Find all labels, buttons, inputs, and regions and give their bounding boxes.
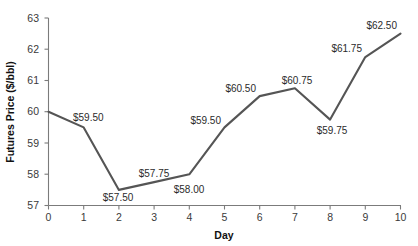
x-tick-label: 6 — [257, 211, 263, 223]
y-axis-title: Futures Price ($/bbl) — [4, 61, 16, 163]
y-tick-label: 60 — [27, 105, 39, 117]
data-point-label: $59.50 — [73, 112, 104, 123]
y-tick-label: 58 — [27, 168, 39, 180]
data-point-label: $57.50 — [103, 192, 134, 203]
x-tick-label: 9 — [362, 211, 368, 223]
x-tick-label: 10 — [395, 211, 407, 223]
y-tick-label: 63 — [27, 12, 39, 24]
data-point-label: $59.50 — [190, 115, 221, 126]
x-axis-title: Day — [214, 229, 233, 241]
data-point-label: $61.75 — [331, 43, 362, 54]
x-tick-label: 5 — [222, 211, 228, 223]
x-tick-label: 0 — [46, 211, 52, 223]
x-tick-label: 8 — [327, 211, 333, 223]
data-point-label: $60.75 — [282, 75, 313, 86]
data-point-label: $58.00 — [174, 184, 205, 195]
y-tick-label: 61 — [27, 74, 39, 86]
x-tick-label: 1 — [81, 211, 87, 223]
x-tick-label: 3 — [151, 211, 157, 223]
y-tick-label: 62 — [27, 43, 39, 55]
x-tick-label: 7 — [292, 211, 298, 223]
y-tick-label: 59 — [27, 137, 39, 149]
x-tick-label: 4 — [186, 211, 192, 223]
line-chart: 63 62 61 60 59 58 57 0 1 2 3 4 5 6 7 8 9… — [0, 0, 418, 246]
data-point-label: $60.50 — [225, 83, 256, 94]
x-tick-label: 2 — [116, 211, 122, 223]
data-point-label: $57.75 — [139, 168, 170, 179]
chart-canvas: 63 62 61 60 59 58 57 0 1 2 3 4 5 6 7 8 9… — [0, 0, 418, 246]
data-point-label: $59.75 — [317, 125, 348, 136]
data-point-label: $62.50 — [366, 20, 397, 31]
y-tick-label: 57 — [27, 199, 39, 211]
